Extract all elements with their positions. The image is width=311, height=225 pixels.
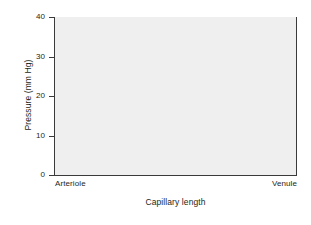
y-axis-title: Pressure (mm Hg): [23, 15, 33, 175]
figure: 40 30 20 10 0 Pressure (mm Hg) Arteriole…: [0, 0, 311, 225]
y-axis-tick-30: [49, 57, 54, 58]
right-axis-line: [296, 17, 297, 176]
x-axis-start-label: Arteriole: [55, 179, 86, 189]
y-axis-tick-40: [49, 17, 54, 18]
y-axis-line: [54, 17, 55, 176]
x-axis-title: Capillary length: [54, 197, 297, 207]
y-axis-tick-10: [49, 136, 54, 137]
x-axis-line: [54, 175, 297, 176]
x-axis-end-label: Venule: [197, 179, 297, 189]
plot-area: [54, 17, 297, 176]
y-axis-tick-20: [49, 96, 54, 97]
y-axis-tick-0: [49, 175, 54, 176]
